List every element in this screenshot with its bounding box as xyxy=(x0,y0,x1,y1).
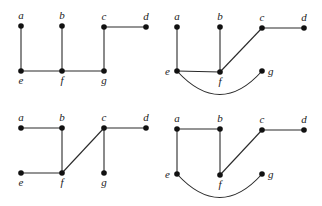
node-a xyxy=(174,126,180,132)
edge-f-c xyxy=(62,128,104,173)
node-e xyxy=(18,68,24,74)
graph-top-left: abcdefg xyxy=(18,9,149,86)
node-a xyxy=(174,24,180,30)
node-a xyxy=(18,23,24,29)
node-label-e: e xyxy=(165,65,170,77)
node-label-g: g xyxy=(268,65,274,77)
node-d xyxy=(301,127,307,133)
node-label-e: e xyxy=(19,176,24,188)
node-label-c: c xyxy=(102,111,107,123)
node-b xyxy=(59,23,65,29)
node-label-f: f xyxy=(60,176,65,188)
node-label-f: f xyxy=(218,75,223,87)
node-a xyxy=(18,125,24,131)
graph-bottom-right: abcdefg xyxy=(165,112,307,198)
node-g xyxy=(259,171,265,177)
node-d xyxy=(301,25,307,31)
node-e xyxy=(174,68,180,74)
node-label-d: d xyxy=(143,10,149,22)
node-label-d: d xyxy=(143,111,149,123)
node-label-d: d xyxy=(301,11,307,23)
edge-e-f xyxy=(177,71,220,72)
node-b xyxy=(59,125,65,131)
node-label-c: c xyxy=(260,113,265,125)
node-f xyxy=(59,170,65,176)
node-g xyxy=(101,170,107,176)
node-f xyxy=(217,69,223,75)
graph-bottom-left: abcdefg xyxy=(18,111,149,188)
node-label-a: a xyxy=(18,9,24,21)
spanning-trees-diagram: abcdefg abcdefg abcdefg abcdefg xyxy=(0,0,322,206)
node-label-b: b xyxy=(217,10,223,22)
node-c xyxy=(259,127,265,133)
node-e xyxy=(174,171,180,177)
edge-f-c xyxy=(220,28,262,72)
node-d xyxy=(143,24,149,30)
node-b xyxy=(217,24,223,30)
node-label-a: a xyxy=(18,111,24,123)
node-label-b: b xyxy=(217,112,223,124)
node-e xyxy=(18,170,24,176)
node-label-d: d xyxy=(301,113,307,125)
node-label-a: a xyxy=(174,10,180,22)
edge-f-c xyxy=(220,130,262,175)
node-label-c: c xyxy=(102,10,107,22)
node-label-g: g xyxy=(268,168,274,180)
node-label-e: e xyxy=(19,74,24,86)
node-f xyxy=(59,68,65,74)
node-label-g: g xyxy=(101,176,107,188)
node-label-e: e xyxy=(165,168,170,180)
node-label-f: f xyxy=(60,74,65,86)
node-label-b: b xyxy=(59,9,65,21)
node-c xyxy=(101,125,107,131)
node-label-a: a xyxy=(174,112,180,124)
node-c xyxy=(259,25,265,31)
node-label-g: g xyxy=(101,74,107,86)
graph-top-right: abcdefg xyxy=(165,10,307,95)
node-b xyxy=(217,126,223,132)
node-label-f: f xyxy=(218,178,223,190)
node-g xyxy=(101,68,107,74)
node-d xyxy=(143,125,149,131)
node-c xyxy=(101,24,107,30)
node-f xyxy=(217,172,223,178)
node-label-c: c xyxy=(260,11,265,23)
node-label-b: b xyxy=(59,111,65,123)
node-g xyxy=(259,68,265,74)
